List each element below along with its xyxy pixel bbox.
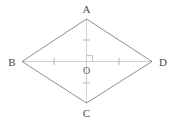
vertex-label-A: A: [83, 3, 91, 15]
vertex-label-D: D: [159, 56, 167, 68]
vertex-label-B: B: [8, 56, 15, 68]
right-angle-marker-icon: [87, 56, 93, 62]
center-label-O: O: [83, 65, 90, 76]
vertex-label-C: C: [83, 107, 90, 119]
diagonals-group: [22, 19, 152, 103]
geometry-figure: A B C D O: [0, 0, 175, 124]
rhombus-diagram-svg: A B C D O: [0, 0, 175, 124]
